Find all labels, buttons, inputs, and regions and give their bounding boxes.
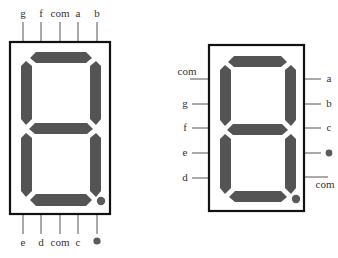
pin-label-com-right: com: [316, 178, 335, 190]
segment-c: [285, 134, 296, 194]
right-segments: [220, 56, 300, 203]
pin-label-g: g: [182, 97, 188, 109]
pin-label-com-left: com: [178, 65, 197, 77]
left-display: g f com a b e d com c: [10, 7, 110, 248]
pin-label-c: c: [76, 236, 81, 248]
seven-segment-diagram: g f com a b e d com c: [0, 0, 338, 258]
pin-label-com-bottom: com: [51, 236, 70, 248]
decimal-point: [292, 195, 300, 203]
right-left-pins: com g f e d: [178, 65, 208, 183]
segment-g: [29, 123, 93, 134]
left-bottom-pins: e d com c: [21, 215, 101, 248]
pin-label-b: b: [94, 7, 100, 19]
pin-label-b: b: [326, 97, 332, 109]
pin-label-d: d: [182, 171, 188, 183]
left-top-pins: g f com a b: [20, 7, 100, 41]
segment-c: [90, 133, 101, 197]
left-segments: [21, 52, 105, 206]
segment-f: [220, 65, 231, 126]
pin-label-dp-dot: [326, 150, 333, 157]
pin-label-a: a: [327, 72, 332, 84]
segment-a: [228, 56, 287, 67]
decimal-point: [97, 197, 105, 205]
pin-label-e: e: [21, 236, 26, 248]
pin-label-c: c: [327, 121, 332, 133]
pin-label-dp-dot: [93, 237, 100, 244]
segment-a: [30, 52, 92, 63]
segment-e: [21, 133, 32, 197]
pin-label-e: e: [183, 146, 188, 158]
pin-label-a: a: [76, 7, 81, 19]
segment-d: [30, 194, 92, 206]
pin-label-g: g: [20, 7, 26, 19]
segment-e: [220, 134, 231, 194]
pin-label-d: d: [38, 236, 44, 248]
segment-d: [229, 191, 287, 202]
pin-label-f: f: [183, 121, 187, 133]
pin-label-com-top: com: [51, 7, 70, 19]
segment-b: [285, 65, 296, 126]
right-right-pins: a b c com: [305, 72, 335, 190]
segment-f: [21, 61, 32, 125]
segment-b: [90, 61, 101, 125]
right-display: com g f e d a b c com: [178, 45, 335, 211]
segment-g: [227, 124, 288, 135]
pin-label-f: f: [39, 7, 43, 19]
